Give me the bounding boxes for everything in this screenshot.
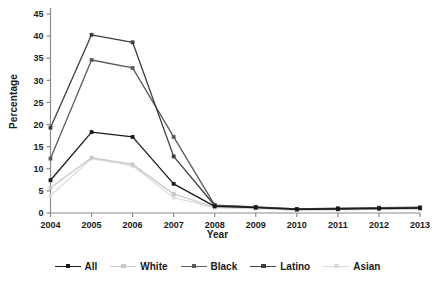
plot-area: 051015202530354045 200420052006200720082… — [0, 0, 435, 245]
series-asian — [49, 157, 422, 213]
legend-item-asian[interactable]: Asian — [323, 261, 380, 272]
legend-swatch-icon — [110, 262, 136, 271]
data-point — [131, 135, 135, 139]
y-tick-label: 25 — [33, 98, 43, 108]
series-latino — [49, 33, 422, 211]
legend-item-latino[interactable]: Latino — [250, 261, 310, 272]
y-tick-label: 10 — [33, 164, 43, 174]
line-chart: 051015202530354045 200420052006200720082… — [0, 0, 435, 282]
data-point — [49, 186, 53, 190]
data-point — [295, 208, 299, 212]
series-line — [51, 35, 421, 209]
data-point — [131, 66, 135, 70]
y-tick-label: 35 — [33, 53, 43, 63]
legend-swatch-icon — [181, 262, 207, 271]
data-point — [131, 162, 135, 166]
y-tick-label: 45 — [33, 9, 43, 19]
y-tick-label: 5 — [38, 186, 43, 196]
y-tick-label: 40 — [33, 31, 43, 41]
legend-label: All — [85, 261, 98, 272]
series-line — [51, 159, 421, 211]
legend-label: Asian — [353, 261, 380, 272]
legend-label: Black — [211, 261, 238, 272]
x-axis: 2004200520062007200820092010201120122013 — [40, 213, 430, 230]
legend-label: Latino — [280, 261, 310, 272]
legend-swatch-icon — [55, 262, 81, 271]
y-tick-label: 0 — [38, 208, 43, 218]
data-point — [90, 58, 94, 62]
series-black — [49, 58, 422, 211]
series-line — [51, 158, 421, 210]
legend-swatch-icon — [250, 262, 276, 271]
data-point — [90, 130, 94, 134]
data-point — [213, 204, 217, 208]
data-point — [254, 206, 258, 210]
legend-label: White — [140, 261, 167, 272]
y-tick-label: 20 — [33, 120, 43, 130]
legend-item-white[interactable]: White — [110, 261, 167, 272]
x-axis-title: Year — [0, 229, 435, 240]
series-layer — [49, 33, 422, 212]
data-point — [418, 206, 422, 210]
data-point — [172, 182, 176, 186]
series-white — [49, 156, 422, 212]
data-point — [172, 192, 176, 196]
series-all — [49, 130, 422, 211]
y-tick-label: 15 — [33, 142, 43, 152]
data-point — [172, 196, 176, 200]
legend-swatch-icon — [323, 262, 349, 271]
plot-svg: 051015202530354045 200420052006200720082… — [0, 0, 435, 245]
data-point — [131, 40, 135, 44]
data-point — [90, 33, 94, 37]
data-point — [49, 178, 53, 182]
data-point — [377, 207, 381, 211]
data-point — [49, 157, 53, 161]
data-point — [172, 154, 176, 158]
series-line — [51, 132, 421, 209]
data-point — [90, 156, 94, 160]
y-axis-title: Percentage — [8, 62, 19, 142]
data-point — [49, 126, 53, 130]
legend-item-all[interactable]: All — [55, 261, 98, 272]
data-point — [172, 135, 176, 139]
y-axis: 051015202530354045 — [33, 8, 50, 218]
series-line — [51, 60, 421, 209]
y-tick-label: 30 — [33, 76, 43, 86]
chart-legend: AllWhiteBlackLatinoAsian — [0, 254, 435, 278]
legend-item-black[interactable]: Black — [181, 261, 238, 272]
data-point — [49, 194, 53, 198]
data-point — [336, 207, 340, 211]
